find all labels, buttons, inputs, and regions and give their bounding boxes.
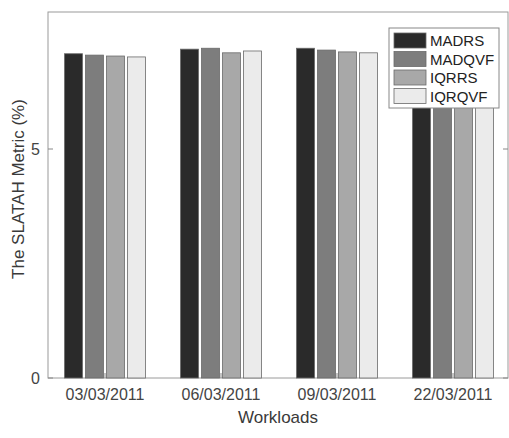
bar-chart: The SLATAH Metric (%) 0503/03/201106/03/… <box>0 0 509 438</box>
bar-iqrrs <box>107 56 125 378</box>
bar-madrs <box>65 54 83 378</box>
bar-iqrqvf <box>360 53 378 378</box>
legend-label-iqrqvf: IQRQVF <box>430 88 488 105</box>
bar-iqrrs <box>339 52 357 378</box>
legend-label-madrs: MADRS <box>430 32 484 49</box>
legend: MADRSMADQVFIQRRSIQRQVF <box>389 28 499 108</box>
x-tick-label: 06/03/2011 <box>182 386 261 403</box>
legend-label-iqrrs: IQRRS <box>430 69 478 86</box>
bar-madrs <box>297 48 315 378</box>
legend-swatch-madrs <box>394 33 426 48</box>
y-tick-label: 0 <box>31 370 40 387</box>
bar-madrs <box>181 49 199 378</box>
bar-iqrrs <box>223 53 241 378</box>
bar-iqrqvf <box>244 51 262 378</box>
legend-swatch-madqvf <box>394 52 426 67</box>
x-axis-label: Workloads <box>48 408 508 428</box>
plot-area: 0503/03/201106/03/201109/03/201122/03/20… <box>0 0 509 438</box>
legend-label-madqvf: MADQVF <box>430 51 494 68</box>
bar-madqvf <box>202 48 220 378</box>
x-tick-label: 09/03/2011 <box>298 386 377 403</box>
legend-swatch-iqrrs <box>394 70 426 85</box>
x-tick-label: 03/03/2011 <box>66 386 145 403</box>
legend-swatch-iqrqvf <box>394 89 426 104</box>
x-tick-label: 22/03/2011 <box>414 386 493 403</box>
y-tick-label: 5 <box>31 141 40 158</box>
bar-madqvf <box>86 55 104 378</box>
bar-iqrqvf <box>128 57 146 378</box>
bar-madqvf <box>318 50 336 378</box>
